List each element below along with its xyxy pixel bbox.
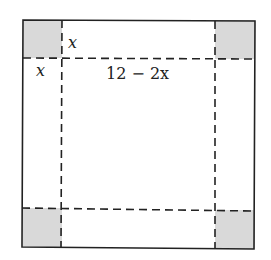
corner-square-top-right	[215, 20, 255, 59]
label-middle-length: 12 − 2x	[106, 64, 169, 83]
label-corner-height: x	[68, 33, 77, 52]
corner-square-bottom-left	[23, 208, 62, 247]
corner-square-top-left	[23, 20, 62, 58]
label-corner-width: x	[36, 61, 45, 80]
corner-square-bottom-right	[215, 210, 255, 249]
cut-square-diagram: x x 12 − 2x	[0, 0, 271, 260]
fold-line-top	[23, 58, 255, 59]
